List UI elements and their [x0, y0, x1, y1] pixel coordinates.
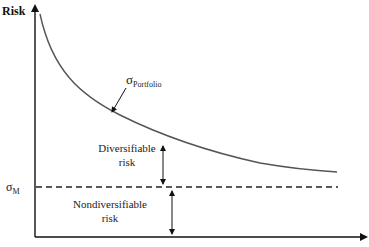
market-risk-label: σM [6, 180, 20, 196]
diversifiable-label-line1: Diversifiable [98, 142, 156, 154]
nondiversifiable-label-line2: risk [102, 212, 119, 224]
nondiversifiable-label-line1: Nondiversifiable [73, 198, 147, 210]
portfolio-risk-diagram: Risk σPortfolio σM Diversifiable risk No… [0, 0, 369, 247]
curve-label: σPortfolio [126, 72, 161, 89]
curve-pointer-arrow [112, 88, 126, 112]
y-axis-label: Risk [2, 4, 26, 18]
diversifiable-label-line2: risk [119, 156, 136, 168]
portfolio-risk-curve [40, 14, 337, 172]
